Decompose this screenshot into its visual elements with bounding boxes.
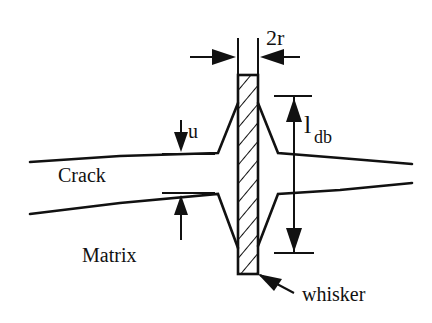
arrow-left-icon <box>260 49 284 65</box>
upper-crack-face-right <box>258 103 412 164</box>
lower-crack-face <box>30 194 238 248</box>
arrow-right-icon <box>212 49 236 65</box>
debond-length-label: l <box>304 110 311 139</box>
lower-crack-face-right <box>258 183 412 246</box>
arrow-pointer-icon <box>258 274 282 291</box>
crack-label: Crack <box>58 164 106 186</box>
arrow-down-icon <box>286 228 302 252</box>
arrow-up-icon <box>286 98 302 122</box>
matrix-label: Matrix <box>82 244 136 266</box>
whisker-bridging-diagram: 2r u l db Crack Matrix whisker <box>0 0 432 323</box>
whisker-pointer <box>258 274 294 293</box>
arrow-down-icon <box>174 132 188 152</box>
width-label: 2r <box>266 25 285 50</box>
debond-length-subscript: db <box>314 127 332 147</box>
whisker-body <box>238 75 258 274</box>
whisker-label: whisker <box>302 283 366 305</box>
displacement-label: u <box>188 120 198 142</box>
